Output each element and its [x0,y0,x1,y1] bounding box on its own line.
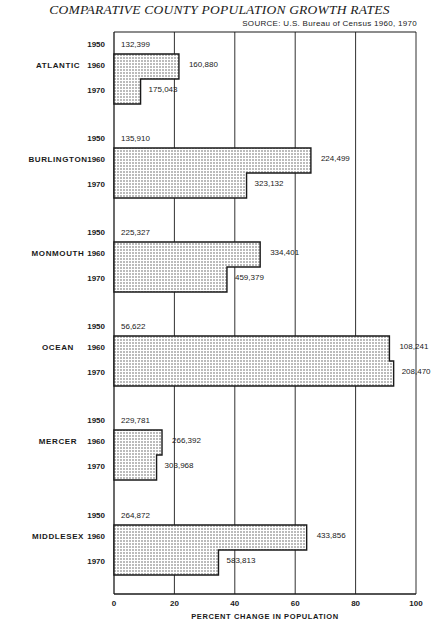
year-label: 1960 [87,155,105,164]
x-axis-ticks: 020406080100 [112,599,423,608]
growth-bar-middlesex [114,525,307,575]
population-1960: 266,392 [172,436,201,445]
population-1960: 224,499 [321,154,350,163]
gridlines [114,32,416,594]
x-tick-label: 0 [112,599,117,608]
year-label: 1970 [87,86,105,95]
year-label: 1960 [87,249,105,258]
county-label: OCEAN [42,343,74,352]
year-label: 1970 [87,274,105,283]
growth-bar-ocean [114,336,394,386]
population-1970: 323,132 [255,179,284,188]
county-label: BURLINGTON [28,155,87,164]
x-axis-title: PERCENT CHANGE IN POPULATION [114,612,416,621]
population-1960: 334,401 [270,248,299,257]
year-label: 1970 [87,180,105,189]
growth-bar-atlantic [114,54,179,104]
population-growth-chart: ATLANTIC195019601970132,399160,880175,04… [0,0,439,627]
year-label: 1950 [87,228,105,237]
growth-bar-mercer [114,430,162,480]
year-label: 1960 [87,343,105,352]
population-1950: 135,910 [121,134,150,143]
population-1960: 160,880 [189,60,218,69]
year-label: 1950 [87,416,105,425]
population-1960: 433,856 [317,531,346,540]
growth-bar-monmouth [114,242,260,292]
population-1960: 108,241 [399,342,428,351]
population-1970: 208,470 [402,367,431,376]
bars [114,54,394,575]
labels: ATLANTIC195019601970132,399160,880175,04… [28,40,431,566]
county-label: MERCER [39,437,77,446]
year-label: 1950 [87,511,105,520]
x-tick-label: 80 [351,599,360,608]
population-1950: 225,327 [121,228,150,237]
county-label: MONMOUTH [32,249,85,258]
population-1970: 459,379 [235,273,264,282]
x-tick-label: 60 [291,599,300,608]
population-1950: 132,399 [121,40,150,49]
year-label: 1960 [87,61,105,70]
year-label: 1970 [87,368,105,377]
population-1950: 229,781 [121,416,150,425]
x-tick-label: 20 [170,599,179,608]
growth-bar-burlington [114,148,311,198]
year-label: 1960 [87,532,105,541]
year-label: 1950 [87,40,105,49]
population-1970: 175,043 [149,85,178,94]
year-label: 1960 [87,437,105,446]
x-tick-label: 100 [409,599,423,608]
x-tick-label: 40 [230,599,239,608]
year-label: 1970 [87,462,105,471]
year-label: 1970 [87,557,105,566]
population-1950: 56,622 [121,322,146,331]
county-label: ATLANTIC [36,61,80,70]
population-1970: 303,968 [165,461,194,470]
county-label: MIDDLESEX [32,532,84,541]
population-1950: 264,872 [121,511,150,520]
year-label: 1950 [87,134,105,143]
population-1970: 583,813 [226,556,255,565]
year-label: 1950 [87,322,105,331]
